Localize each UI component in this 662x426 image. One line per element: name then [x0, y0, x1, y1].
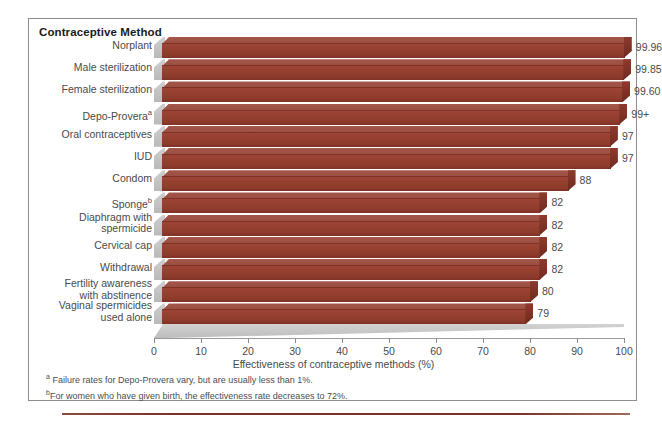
x-axis-tick-label: 100	[615, 345, 633, 357]
bar	[154, 37, 632, 58]
bar-row: Male sterilization99.85	[29, 59, 638, 80]
x-axis: 0102030405060708090100	[29, 338, 638, 340]
bar-value-label: 88	[580, 174, 592, 186]
bar-front-face	[162, 243, 540, 258]
bar	[154, 104, 627, 125]
bar-end-cap	[624, 37, 632, 58]
x-axis-tick-label: 0	[151, 345, 157, 357]
x-axis-tick-label: 90	[571, 345, 583, 357]
x-axis-tick-label: 30	[289, 345, 301, 357]
footnote: bFor women who have given birth, the eff…	[46, 387, 347, 403]
bar-front-face	[162, 154, 611, 169]
category-label: Condom	[0, 173, 152, 185]
bar	[154, 192, 547, 213]
bar-row: Condom88	[29, 170, 638, 191]
bar	[154, 81, 630, 102]
bar	[154, 237, 547, 258]
footnote-mark: b	[148, 196, 152, 205]
bar-front-face	[162, 176, 569, 191]
x-axis-tick-label: 70	[477, 345, 489, 357]
footnote-mark: b	[46, 389, 50, 396]
bar-row: Depo-Proveraa99+	[29, 104, 638, 125]
bar-end-cap	[530, 281, 538, 302]
bar-end-cap	[539, 192, 547, 213]
category-label: Withdrawal	[0, 262, 152, 274]
bar-end-cap	[525, 303, 533, 324]
category-label: Cervical cap	[0, 240, 152, 252]
bar-end-cap	[623, 59, 631, 80]
bar-end-cap	[539, 215, 547, 236]
category-label: Fertility awarenesswith abstinence	[0, 278, 152, 301]
footnote-mark: a	[46, 373, 50, 380]
bar	[154, 259, 547, 280]
bar	[154, 170, 576, 191]
x-axis-tick	[154, 338, 155, 343]
bar-end-cap	[610, 126, 618, 147]
x-axis-tick	[530, 338, 531, 343]
x-axis-tick-label: 80	[524, 345, 536, 357]
bar-end-cap	[539, 237, 547, 258]
bar-value-label: 82	[551, 196, 563, 208]
x-axis-tick-label: 60	[430, 345, 442, 357]
bar	[154, 126, 618, 147]
category-label: Male sterilization	[0, 62, 152, 74]
bar-front-face	[162, 87, 623, 102]
x-axis-tick	[483, 338, 484, 343]
footnote-mark: a	[148, 108, 152, 117]
bar-value-label: 82	[551, 219, 563, 231]
bar	[154, 59, 631, 80]
bar-row: Norplant99.96	[29, 37, 638, 58]
bar-end-cap	[622, 81, 630, 102]
chart-frame: Contraceptive Method Norplant99.96Male s…	[28, 18, 637, 401]
bar-end-cap	[539, 259, 547, 280]
category-label: Norplant	[0, 40, 152, 52]
x-axis-tick-label: 10	[195, 345, 207, 357]
bar-end-cap	[619, 104, 627, 125]
category-label: Oral contraceptives	[0, 129, 152, 141]
category-label: Vaginal spermicidesused alone	[0, 300, 152, 323]
bar-row: Female sterilization99.60	[29, 81, 638, 102]
bar	[154, 303, 533, 324]
bar-end-cap	[610, 148, 618, 169]
footnotes: a Failure rates for Depo-Provera vary, b…	[46, 371, 347, 402]
bar-value-label: 99.96	[636, 41, 662, 53]
footnote: a Failure rates for Depo-Provera vary, b…	[46, 371, 347, 387]
bar-front-face	[162, 221, 540, 236]
bar-front-face	[162, 287, 531, 302]
bar-front-face	[162, 43, 625, 58]
category-label: Depo-Proveraa	[0, 107, 152, 122]
bar-row: Oral contraceptives97	[29, 126, 638, 147]
x-axis-tick-label: 50	[383, 345, 395, 357]
bar-front-face	[162, 132, 611, 147]
category-label: Diaphragm withspermicide	[0, 212, 152, 235]
bar-value-label: 99+	[631, 108, 649, 120]
x-axis-tick	[248, 338, 249, 343]
bar-value-label: 82	[551, 263, 563, 275]
bar	[154, 148, 618, 169]
bar-front-face	[162, 110, 620, 125]
x-axis-tick	[295, 338, 296, 343]
x-axis-title: Effectiveness of contraceptive methods (…	[29, 358, 638, 370]
bottom-rule	[62, 413, 630, 415]
bar-value-label: 79	[537, 307, 549, 319]
category-label: Spongeb	[0, 195, 152, 210]
x-axis-tick	[624, 338, 625, 343]
category-label: Female sterilization	[0, 84, 152, 96]
bar-row: IUD97	[29, 148, 638, 169]
bar-rows: Norplant99.96Male sterilization99.85Fema…	[29, 19, 638, 402]
bar-value-label: 97	[622, 152, 634, 164]
x-axis-tick	[201, 338, 202, 343]
bar-front-face	[162, 65, 624, 80]
bar-value-label: 80	[542, 285, 554, 297]
bar	[154, 281, 538, 302]
bar-front-face	[162, 309, 526, 324]
bar-row: Diaphragm withspermicide82	[29, 215, 638, 236]
bar-value-label: 99.85	[635, 63, 661, 75]
bar-front-face	[162, 265, 540, 280]
x-axis-tick	[577, 338, 578, 343]
x-axis-tick	[342, 338, 343, 343]
x-axis-tick-label: 20	[242, 345, 254, 357]
bar	[154, 215, 547, 236]
category-label: IUD	[0, 151, 152, 163]
bar-row: Cervical cap82	[29, 237, 638, 258]
